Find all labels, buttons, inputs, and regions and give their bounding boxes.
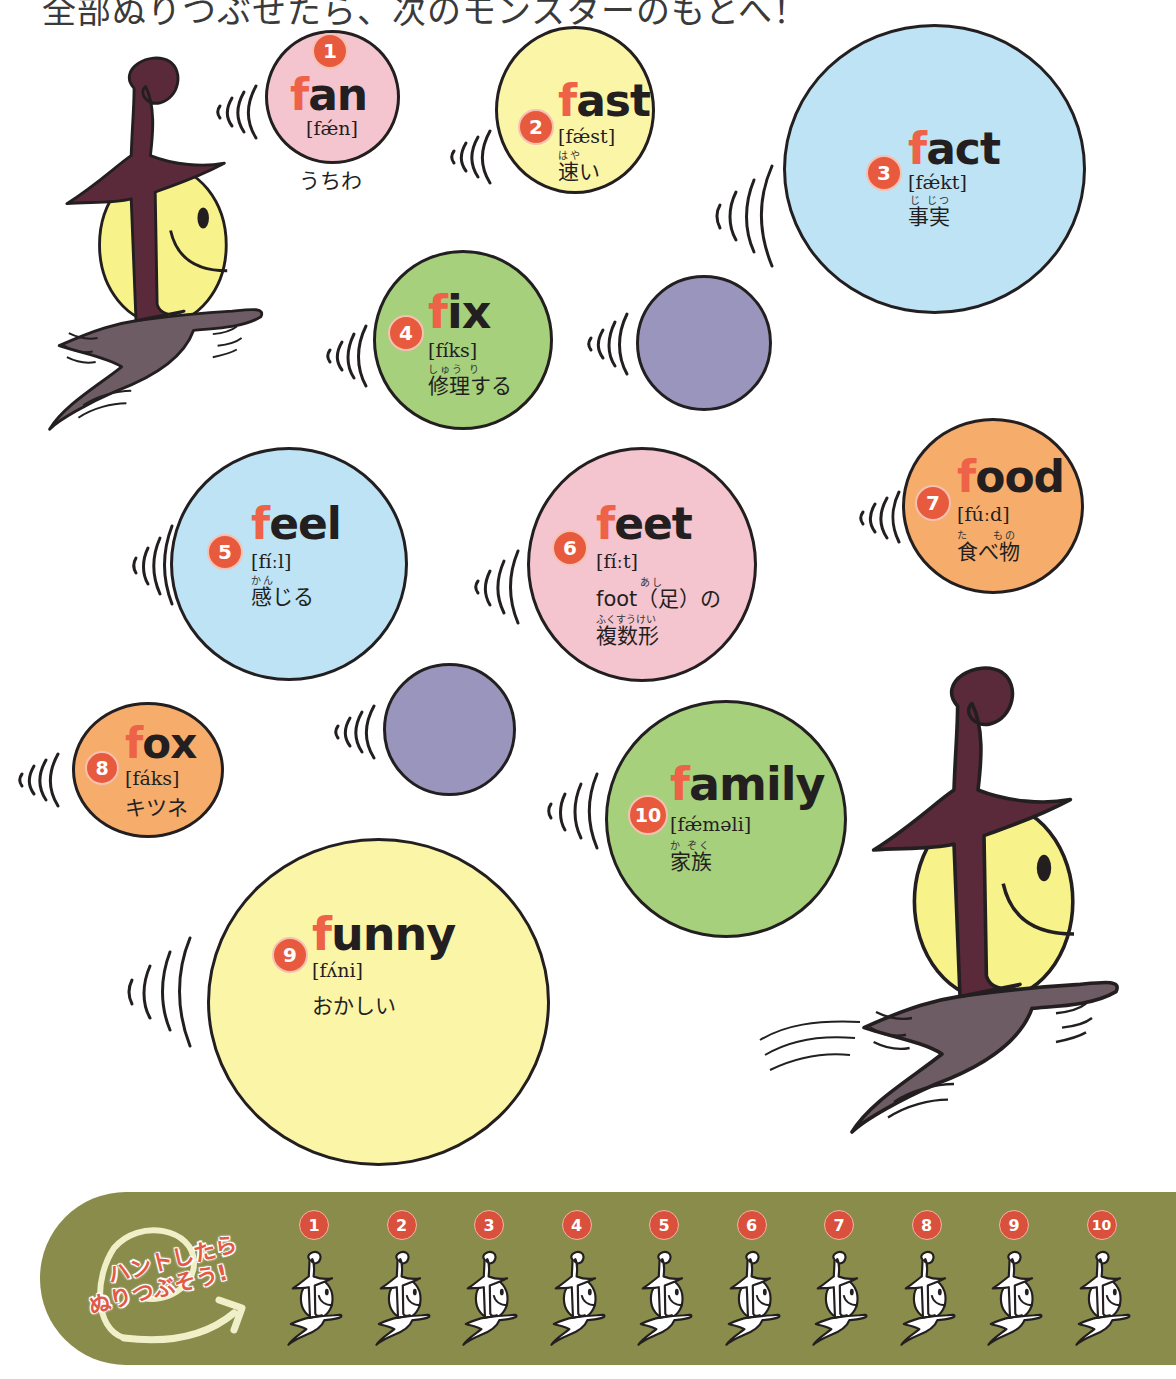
slot-number-badge: 9 <box>999 1210 1029 1240</box>
motion-lines-icon <box>322 320 378 390</box>
word-bubble-fix: 4 fix [fíks] しゅう り 修理する <box>373 250 553 430</box>
motion-lines-icon <box>122 930 212 1050</box>
pronunciation: [fǽməli] <box>670 813 825 835</box>
slot-number-badge: 5 <box>649 1210 679 1240</box>
word-bubble-family: 10 family [fǽməli] か ぞく 家族 <box>605 700 847 938</box>
word-bubble-feet: 6 feet [fíːt] あし foot（足）の ふくすうけい 複数形 <box>527 447 757 682</box>
meaning-text: 複数形 <box>596 625 721 648</box>
word-bubble-fact: 3 fact [fǽkt] じ じつ 事実 <box>783 24 1086 314</box>
monster-character-right-icon <box>840 648 1140 1148</box>
slot-number-badge: 2 <box>387 1210 417 1240</box>
word-text: fact <box>908 127 1000 171</box>
pronunciation: [fíks] <box>428 339 512 361</box>
word-text: family <box>670 761 825 807</box>
meaning-text: 家族 <box>670 851 825 874</box>
slot-number-badge: 10 <box>1087 1210 1117 1240</box>
pronunciation: [fʌ́ni] <box>312 959 455 981</box>
monster-silhouette-icon <box>636 1248 696 1348</box>
monster-silhouette-icon <box>986 1248 1046 1348</box>
word-bubble-fox: 8 fox [fáks] キツネ <box>72 702 224 838</box>
word-text: fix <box>428 289 512 335</box>
word-bubble-fast: 2 fast [fǽst] はや 速い <box>495 26 655 194</box>
word-text: fox <box>125 723 196 765</box>
number-badge: 4 <box>388 315 424 351</box>
slot-number-badge: 8 <box>912 1210 942 1240</box>
meaning-text: 速い <box>558 161 650 184</box>
pronunciation: [fǽst] <box>558 125 650 147</box>
meaning-text: うちわ <box>299 170 362 193</box>
motion-lines-icon <box>470 545 530 625</box>
number-badge: 2 <box>518 109 554 145</box>
monster-slot[interactable]: 3 <box>461 1210 521 1360</box>
slot-number-badge: 7 <box>824 1210 854 1240</box>
number-badge: 9 <box>272 937 308 973</box>
number-badge: 5 <box>207 534 243 570</box>
motion-lines-icon <box>543 770 613 850</box>
monster-slot[interactable]: 8 <box>899 1210 959 1360</box>
monster-silhouette-icon <box>899 1248 959 1348</box>
monster-silhouette-icon <box>374 1248 434 1348</box>
meaning-text: foot（足）の <box>596 588 721 611</box>
monster-slot[interactable]: 2 <box>374 1210 434 1360</box>
motion-lines-icon <box>710 160 790 270</box>
motion-lines-icon <box>14 748 70 808</box>
number-badge: 8 <box>85 751 119 785</box>
motion-lines-icon <box>446 125 502 185</box>
monster-slot[interactable]: 4 <box>549 1210 609 1360</box>
monster-slot[interactable]: 6 <box>724 1210 784 1360</box>
word-text: feet <box>596 502 721 546</box>
meaning-text: 事実 <box>908 206 1000 229</box>
motion-lines-icon <box>212 80 268 140</box>
meaning-text: 食べ物 <box>957 541 1064 564</box>
number-badge: 3 <box>866 155 902 191</box>
monster-silhouette-icon <box>811 1248 871 1348</box>
progress-banner: ハントしたら ぬりつぶそう! 1 2 3 <box>40 1192 1176 1365</box>
motion-lines-icon <box>330 700 386 760</box>
number-badge: 7 <box>915 485 951 521</box>
word-bubble-funny: 9 funny [fʌ́ni] おかしい <box>207 838 550 1166</box>
monster-silhouette-icon <box>549 1248 609 1348</box>
pronunciation: [fúːd] <box>957 503 1064 525</box>
meaning-text: 感じる <box>251 586 341 609</box>
number-badge: 10 <box>628 795 668 835</box>
monster-silhouette-icon <box>461 1248 521 1348</box>
number-badge: 6 <box>552 530 588 566</box>
instruction-text: 全部ぬりつぶせたら、次のモンスターのもとへ！ <box>42 0 808 33</box>
word-text: fan <box>290 73 367 117</box>
monster-silhouette-icon <box>286 1248 346 1348</box>
slot-number-badge: 4 <box>562 1210 592 1240</box>
meaning-text: おかしい <box>312 995 455 1018</box>
pronunciation: [fíːt] <box>596 550 721 572</box>
slot-number-badge: 6 <box>737 1210 767 1240</box>
motion-lines-icon <box>583 308 639 378</box>
slot-number-badge: 3 <box>474 1210 504 1240</box>
word-bubble-fan: 1 fan [fǽn] <box>265 30 400 164</box>
monster-silhouette-icon <box>724 1248 784 1348</box>
word-text: funny <box>312 911 455 957</box>
word-bubble-feel: 5 feel [fíːl] かん 感じる <box>170 447 408 681</box>
word-text: feel <box>251 502 341 546</box>
monster-slot[interactable]: 7 <box>811 1210 871 1360</box>
word-bubble-food: 7 food [fúːd] た もの 食べ物 <box>902 418 1084 594</box>
pronunciation: [fíːl] <box>251 550 341 572</box>
word-text: food <box>957 455 1064 499</box>
motion-wind-lines-icon <box>755 1010 865 1090</box>
slot-number-badge: 1 <box>299 1210 329 1240</box>
word-text: fast <box>558 79 650 123</box>
pronunciation: [fǽkt] <box>908 171 1000 193</box>
number-badge: 1 <box>312 33 348 69</box>
monster-silhouette-icon <box>1074 1248 1134 1348</box>
pronunciation: [fáks] <box>125 767 196 789</box>
meaning-text: 修理する <box>428 375 512 398</box>
monster-slot[interactable]: 9 <box>986 1210 1046 1360</box>
monster-slot[interactable]: 1 <box>286 1210 346 1360</box>
empty-purple-bubble <box>383 663 516 796</box>
monster-slot[interactable]: 10 <box>1074 1210 1134 1360</box>
monster-slot[interactable]: 5 <box>636 1210 696 1360</box>
pronunciation: [fǽn] <box>306 117 367 139</box>
meaning-text: キツネ <box>125 797 196 820</box>
empty-purple-bubble <box>636 275 772 411</box>
